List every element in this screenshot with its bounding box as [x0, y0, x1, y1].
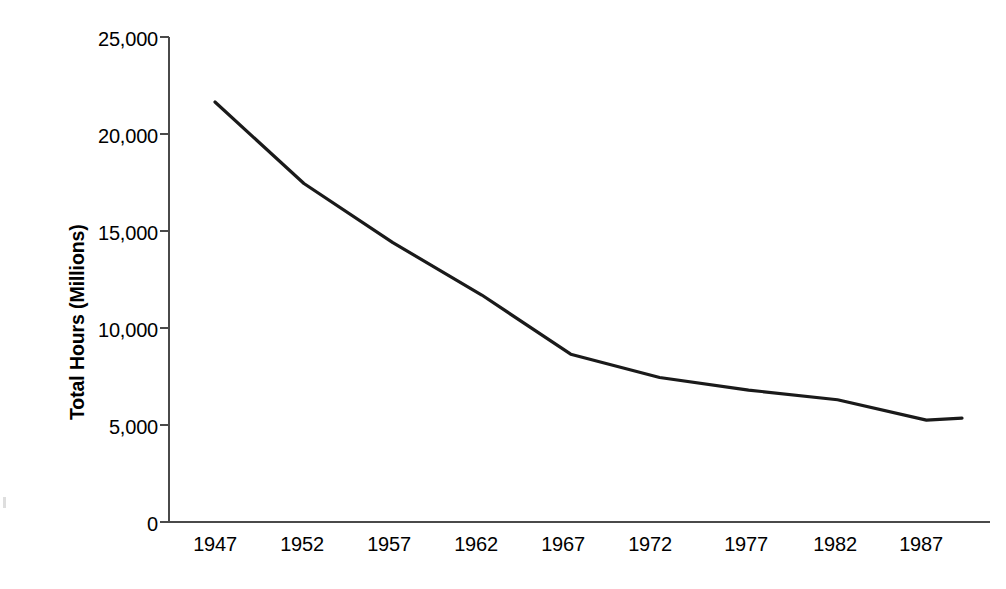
- y-axis-ticks: [160, 37, 169, 522]
- data-series-line: [215, 102, 962, 420]
- plot-area: [0, 0, 1006, 589]
- chart-page: Total Hours (Millions) 25,000 20,000 15,…: [0, 0, 1006, 589]
